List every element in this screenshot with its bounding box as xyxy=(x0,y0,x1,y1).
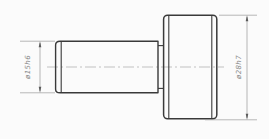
arrow-up-icon xyxy=(246,15,249,21)
dimension-label-head-diameter: ø28h7 xyxy=(235,55,243,79)
arrow-down-icon xyxy=(246,114,249,120)
technical-drawing: ø15h6 ø28h7 xyxy=(0,0,269,139)
arrow-up-icon xyxy=(39,41,42,47)
drawing-svg xyxy=(0,0,269,139)
dimension-label-shaft-diameter: ø15h6 xyxy=(24,55,32,79)
arrow-down-icon xyxy=(39,87,42,93)
dimension-head-diameter xyxy=(205,15,257,120)
